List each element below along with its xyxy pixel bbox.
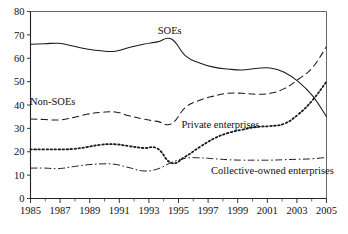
x-axis: 1985198719891991199319951997199920012003…: [20, 199, 337, 217]
y-tick-label: 50: [14, 76, 25, 87]
x-tick-label: 1987: [50, 205, 71, 216]
series-label-collective-owned-enterprises: Collective-owned enterprises: [211, 165, 334, 176]
x-tick-label: 2005: [316, 205, 337, 216]
y-tick-label: 40: [14, 100, 25, 111]
y-tick-label: 60: [14, 53, 25, 64]
x-tick-label: 1995: [168, 205, 189, 216]
series-line-non-soes: [31, 47, 327, 125]
y-axis: 01020304050607080: [14, 6, 31, 204]
chart-container: 01020304050607080 1985198719891991199319…: [0, 0, 348, 234]
y-tick-label: 0: [19, 193, 24, 204]
y-tick-label: 20: [14, 146, 25, 157]
y-tick-label: 10: [14, 170, 25, 181]
series-line-private-enterprises: [31, 82, 327, 164]
x-tick-label: 1993: [138, 205, 159, 216]
line-chart: 01020304050607080 1985198719891991199319…: [0, 0, 348, 234]
series-label-soes: SOEs: [158, 25, 182, 36]
x-tick-label: 1991: [109, 205, 130, 216]
y-tick-label: 80: [14, 6, 25, 17]
x-tick-label: 1989: [79, 205, 100, 216]
y-tick-label: 30: [14, 123, 25, 134]
y-tick-group: 01020304050607080: [14, 6, 31, 204]
series-label-non-soes: Non-SOEs: [30, 96, 76, 107]
x-tick-group: 1985198719891991199319951997199920012003…: [20, 199, 337, 217]
series-label-group: SOEsNon-SOEsPrivate enterprisesCollectiv…: [30, 25, 334, 176]
y-tick-label: 70: [14, 30, 25, 41]
x-tick-label: 1997: [198, 205, 219, 216]
x-tick-label: 2003: [286, 205, 307, 216]
x-tick-label: 1985: [20, 205, 41, 216]
x-tick-label: 2001: [257, 205, 278, 216]
series-label-private-enterprises: Private enterprises: [181, 119, 259, 130]
x-tick-label: 1999: [227, 205, 248, 216]
